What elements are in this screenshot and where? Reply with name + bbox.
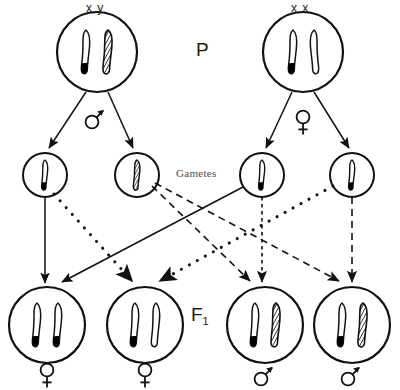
cell-membrane [314, 287, 390, 363]
cell-membrane [57, 12, 137, 92]
gametes-label: Gametes [176, 168, 217, 179]
gamete-cell-1 [23, 153, 67, 197]
cross-line-dashed [155, 183, 339, 281]
cross-line-dashed [152, 186, 250, 281]
cell-membrane [107, 287, 183, 363]
meiosis-arrows-male [49, 92, 133, 148]
parent-cell-female [263, 12, 343, 92]
female-symbol-f1-1 [41, 364, 54, 388]
cell-membrane [227, 287, 303, 363]
parent-cell-male [57, 12, 137, 92]
offspring-cell-f1-1 [9, 287, 85, 363]
cross-line-dotted [160, 186, 333, 281]
gamete-cell-3 [240, 153, 284, 197]
male-symbol-parent [86, 110, 104, 129]
meiosis-arrow [266, 92, 292, 148]
offspring-cell-f1-2 [107, 287, 183, 363]
female-symbol-parent [297, 111, 310, 135]
meiosis-arrows-female [266, 92, 349, 148]
gamete-cell-2 [115, 153, 159, 197]
cell-membrane [9, 287, 85, 363]
parent-female-genotype-label: x x [291, 2, 309, 14]
parent-generation-label: P [196, 40, 209, 59]
f1-generation-subscript: 1 [203, 315, 209, 327]
f1-generation-letter: F [191, 304, 203, 325]
male-symbol-f1-4 [342, 367, 360, 386]
offspring-cell-f1-3 [227, 287, 303, 363]
cell-membrane [263, 12, 343, 92]
gamete-cell-4 [330, 153, 374, 197]
f1-generation-label: F1 [191, 305, 209, 324]
parent-male-genotype-label: x y [86, 2, 104, 14]
meiosis-arrow [49, 92, 86, 148]
meiosis-arrow [108, 92, 133, 148]
female-symbol-f1-2 [139, 364, 152, 388]
meiosis-arrow [314, 92, 349, 148]
offspring-cell-f1-4 [314, 287, 390, 363]
cross-line-dotted [54, 194, 132, 281]
male-symbol-f1-3 [255, 367, 273, 386]
